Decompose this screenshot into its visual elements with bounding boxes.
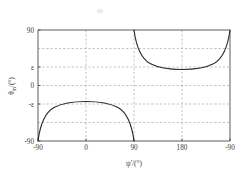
- grid-group: [38, 30, 230, 141]
- x-tick-labels: -90 0 90 180 -90: [33, 144, 235, 152]
- x-tick-label-neg90-left: -90: [33, 144, 43, 152]
- y-axis-title: θm/(°): [7, 77, 17, 95]
- figure-container: 90 ε 0 -ε -90 -90 0 90 180 -90 θm/(°) ψ'…: [0, 0, 243, 181]
- y-tick-label-90: 90: [27, 27, 35, 35]
- x-axis-title-unit: /(°): [132, 159, 142, 168]
- y-tick-label-eps: ε: [31, 64, 34, 72]
- svg-text:θm/(°): θm/(°): [7, 77, 17, 95]
- x-axis-title: ψ'/(°): [126, 159, 142, 168]
- x-tick-label-180: 180: [177, 144, 188, 152]
- y-tick-labels: 90 ε 0 -ε -90: [24, 27, 34, 146]
- y-axis-title-unit: /(°): [7, 77, 16, 87]
- svg-text:ψ'/(°): ψ'/(°): [126, 159, 142, 168]
- x-tick-label-90: 90: [130, 144, 138, 152]
- x-tick-label-neg90-right: -90: [225, 144, 235, 152]
- y-tick-label-0: 0: [30, 82, 34, 90]
- x-tick-label-0: 0: [84, 144, 88, 152]
- chart-svg: 90 ε 0 -ε -90 -90 0 90 180 -90 θm/(°) ψ'…: [0, 0, 243, 181]
- scan-artifact: [97, 9, 103, 13]
- y-tick-label-neg-eps: -ε: [29, 101, 34, 109]
